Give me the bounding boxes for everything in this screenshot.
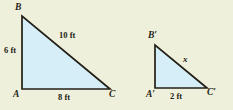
vertex-label-A-prime: A′ <box>146 90 155 100</box>
similar-triangles-figure: B A C 6 ft 10 ft 8 ft B′ A′ C′ x 2 ft <box>0 0 233 110</box>
side-label-AC-prime-2ft: 2 ft <box>170 92 182 101</box>
side-label-BC-prime-x: x <box>183 55 188 64</box>
triangles-canvas <box>0 0 233 110</box>
side-label-BC-10ft: 10 ft <box>59 31 75 40</box>
large-triangle-shape <box>22 16 110 89</box>
vertex-label-B: B <box>15 3 21 13</box>
side-label-AC-8ft: 8 ft <box>58 93 70 102</box>
vertex-label-C-prime: C′ <box>207 88 216 98</box>
small-triangle-shape <box>155 45 207 88</box>
vertex-label-C: C <box>109 90 115 100</box>
vertex-label-B-prime: B′ <box>148 31 157 41</box>
side-label-AB-6ft: 6 ft <box>4 46 16 55</box>
vertex-label-A: A <box>13 90 19 100</box>
